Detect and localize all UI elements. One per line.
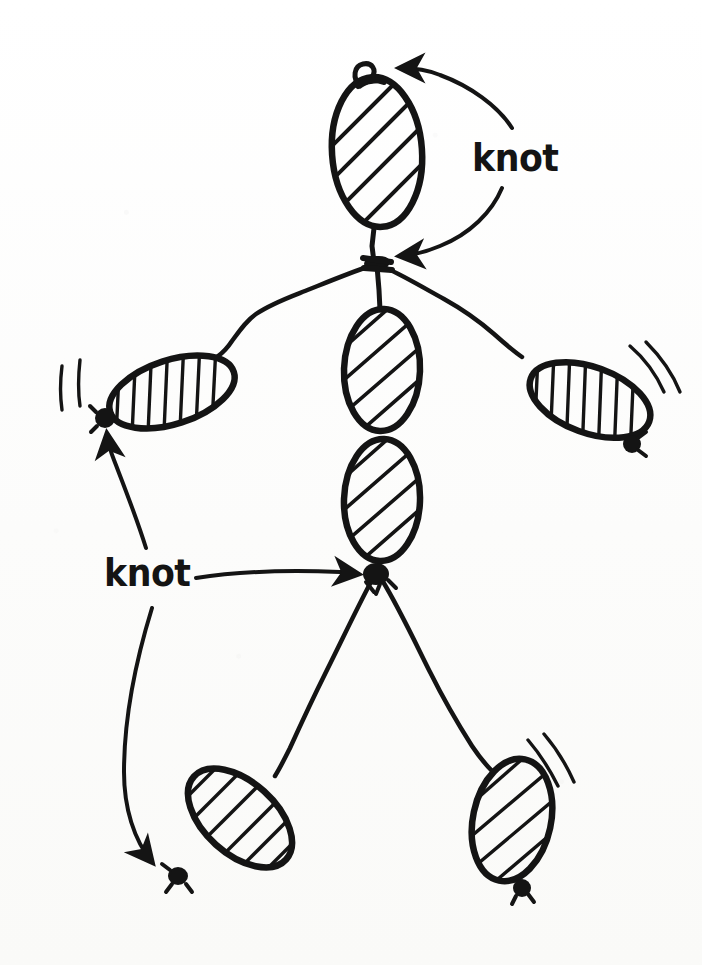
knot-label-top: knot [472, 137, 559, 180]
segment-left-leg [170, 750, 310, 904]
right-foot-knot [512, 879, 534, 904]
string-figure-illustration [0, 0, 702, 965]
arrow-to-left-hand-knot [107, 434, 146, 548]
motion-lines-right-hand [630, 342, 680, 392]
string-right-leg [382, 580, 493, 772]
left-arm-outline [100, 341, 243, 442]
string-left-leg [275, 580, 372, 776]
knots [90, 64, 646, 904]
knot-label-bottom: knot [104, 552, 191, 595]
arrow-to-left-foot-knot [124, 608, 152, 862]
left-leg-outline [170, 750, 310, 886]
drawing-canvas: knot knot [0, 0, 702, 965]
arrow-to-hip-knot [196, 571, 358, 578]
annotation-arrows [107, 68, 512, 862]
neck-knot [363, 255, 392, 272]
string-neck-to-torso [377, 266, 380, 310]
string-right-arm [386, 268, 522, 357]
motion-lines-left-hand [61, 360, 81, 410]
left-foot-knot [162, 864, 192, 892]
